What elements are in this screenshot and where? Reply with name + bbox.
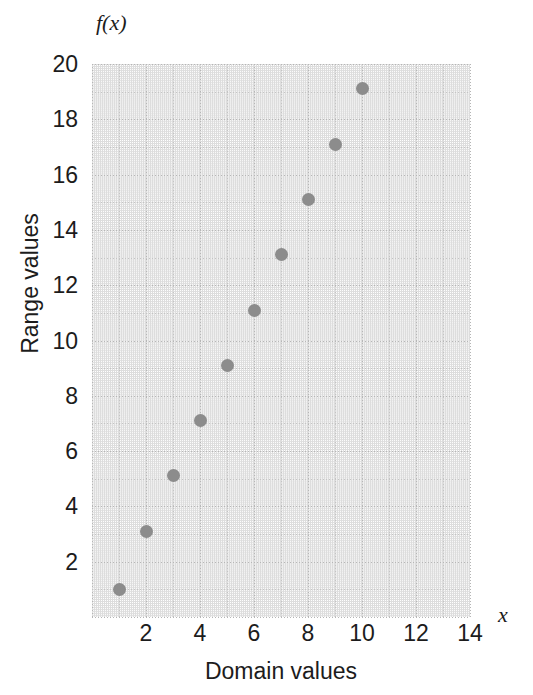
gridline-horizontal xyxy=(92,147,470,148)
x-tick-label: 14 xyxy=(440,622,500,645)
data-point xyxy=(275,248,288,261)
x-tick-label: 8 xyxy=(278,622,338,645)
x-tick-label: 2 xyxy=(116,622,176,645)
gridline-horizontal xyxy=(92,341,470,342)
gridline-horizontal xyxy=(92,589,470,590)
y-tick-label: 16 xyxy=(18,164,78,187)
gridline-horizontal xyxy=(92,506,470,507)
y-tick-label: 4 xyxy=(18,495,78,518)
y-tick-label: 8 xyxy=(18,385,78,408)
gridline-horizontal xyxy=(92,119,470,120)
scatter-plot-figure: f(x) x Range values Domain values 246810… xyxy=(0,0,533,695)
plot-area xyxy=(92,64,470,617)
gridline-horizontal xyxy=(92,202,470,203)
y-axis-symbol-label: f(x) xyxy=(96,10,127,36)
gridline-horizontal xyxy=(92,230,470,231)
y-tick-label: 2 xyxy=(18,551,78,574)
data-point xyxy=(194,414,207,427)
gridline-vertical xyxy=(470,64,471,617)
y-tick-label: 20 xyxy=(18,53,78,76)
gridline-horizontal xyxy=(92,617,470,618)
y-tick-label: 12 xyxy=(18,274,78,297)
data-point xyxy=(167,469,180,482)
data-point xyxy=(221,359,234,372)
gridline-horizontal xyxy=(92,285,470,286)
y-tick-label: 14 xyxy=(18,219,78,242)
data-point xyxy=(302,193,315,206)
x-tick-label: 12 xyxy=(386,622,446,645)
x-tick-label: 10 xyxy=(332,622,392,645)
data-point xyxy=(329,138,342,151)
gridline-horizontal xyxy=(92,64,470,65)
y-tick-label: 10 xyxy=(18,330,78,353)
x-tick-label: 6 xyxy=(224,622,284,645)
y-tick-label: 18 xyxy=(18,108,78,131)
gridline-horizontal xyxy=(92,479,470,480)
gridline-horizontal xyxy=(92,396,470,397)
data-point xyxy=(140,525,153,538)
gridline-horizontal xyxy=(92,368,470,369)
gridline-horizontal xyxy=(92,423,470,424)
y-tick-label: 6 xyxy=(18,440,78,463)
gridline-horizontal xyxy=(92,562,470,563)
x-tick-label: 4 xyxy=(170,622,230,645)
gridline-horizontal xyxy=(92,451,470,452)
gridline-horizontal xyxy=(92,92,470,93)
x-axis-title: Domain values xyxy=(92,658,470,685)
data-point xyxy=(356,82,369,95)
gridline-horizontal xyxy=(92,175,470,176)
gridline-horizontal xyxy=(92,313,470,314)
data-point xyxy=(248,304,261,317)
data-point xyxy=(113,583,126,596)
